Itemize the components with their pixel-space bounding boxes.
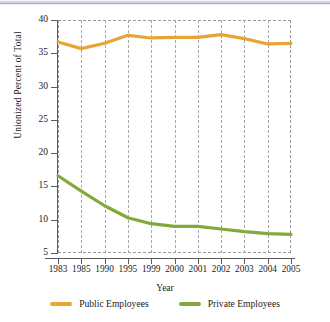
- chart-legend: Public EmployeesPrivate Employees: [0, 298, 330, 309]
- y-tick-label: 15: [24, 181, 48, 191]
- legend-label: Public Employees: [79, 298, 149, 309]
- x-axis-line: [45, 258, 295, 259]
- legend-item[interactable]: Public Employees: [50, 298, 149, 309]
- y-tick-mark: [51, 53, 57, 54]
- plot-area: [58, 20, 291, 253]
- y-tick-label: 35: [24, 48, 48, 58]
- y-tick-label: 10: [24, 215, 48, 225]
- y-tick-mark: [51, 20, 57, 21]
- y-tick-mark: [51, 153, 57, 154]
- x-tick-label: 2005: [271, 265, 311, 274]
- y-tick-mark: [51, 120, 57, 121]
- y-tick-mark: [51, 253, 57, 254]
- y-tick-mark: [51, 186, 57, 187]
- legend-item[interactable]: Private Employees: [179, 298, 280, 309]
- x-axis-title: Year: [0, 283, 330, 293]
- y-tick-label: 30: [24, 82, 48, 92]
- series-lines: [58, 20, 291, 253]
- y-tick-label: 25: [24, 115, 48, 125]
- y-tick-mark: [51, 87, 57, 88]
- y-tick-label: 5: [24, 248, 48, 258]
- series-line: [58, 35, 291, 49]
- legend-label: Private Employees: [208, 298, 280, 309]
- y-tick-mark: [51, 220, 57, 221]
- chart-figure: Unionized Percent of Total 5101520253035…: [0, 0, 330, 322]
- y-tick-label: 40: [24, 15, 48, 25]
- header-accent-rule: [0, 3, 330, 4]
- legend-swatch: [50, 302, 72, 306]
- y-axis-title: Unionized Percent of Total: [13, 5, 23, 165]
- y-tick-label: 20: [24, 148, 48, 158]
- series-line: [58, 176, 291, 235]
- legend-swatch: [179, 302, 201, 306]
